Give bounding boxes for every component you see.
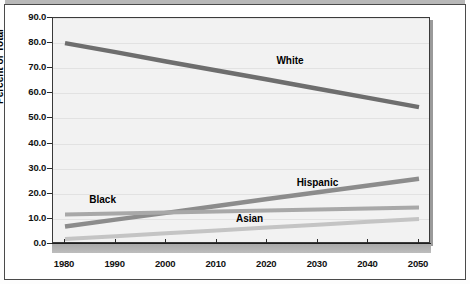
plot-area (52, 17, 430, 243)
y-axis-tick-mark (47, 193, 52, 194)
y-axis-tick-label: 60.0 (0, 86, 46, 97)
series-label-asian: Asian (236, 213, 263, 224)
y-axis-tick-label: 20.0 (0, 187, 46, 198)
x-axis-tick-label: 2020 (243, 258, 289, 269)
series-label-black: Black (89, 194, 116, 205)
series-line-white (65, 43, 419, 107)
y-axis-tick-mark (47, 218, 52, 219)
y-axis-tick-label: 40.0 (0, 137, 46, 148)
y-axis-tick-label: 50.0 (0, 111, 46, 122)
series-label-white: White (276, 55, 303, 66)
y-axis-title: Percent of Total (0, 29, 5, 104)
y-axis-tick-label: 70.0 (0, 61, 46, 72)
y-axis-tick-mark (47, 143, 52, 144)
x-axis-tick-label: 2030 (294, 258, 340, 269)
y-axis-tick-mark (47, 17, 52, 18)
chart-figure: 90.080.070.060.050.040.030.020.010.00.0 … (0, 0, 470, 284)
y-axis-tick-mark (47, 42, 52, 43)
x-axis-tick-label: 1980 (41, 258, 87, 269)
series-lines (53, 18, 431, 244)
series-label-hispanic: Hispanic (297, 177, 339, 188)
x-axis-tick-label: 2010 (193, 258, 239, 269)
x-axis-tick-label: 2040 (344, 258, 390, 269)
y-axis-tick-mark (47, 92, 52, 93)
y-axis-tick-label: 90.0 (0, 11, 46, 22)
y-axis-tick-label: 0.0 (0, 237, 46, 248)
x-axis-band (52, 244, 431, 253)
x-axis-tick-label: 2000 (142, 258, 188, 269)
y-axis-tick-label: 80.0 (0, 36, 46, 47)
x-axis-tick-label: 1990 (92, 258, 138, 269)
x-axis-tick-label: 2050 (395, 258, 441, 269)
y-axis-tick-mark (47, 117, 52, 118)
y-axis-tick-label: 10.0 (0, 212, 46, 223)
plot-wrapper: 90.080.070.060.050.040.030.020.010.00.0 … (0, 0, 470, 284)
y-axis-tick-label: 30.0 (0, 162, 46, 173)
y-axis-tick-mark (47, 168, 52, 169)
y-axis-tick-mark (47, 67, 52, 68)
